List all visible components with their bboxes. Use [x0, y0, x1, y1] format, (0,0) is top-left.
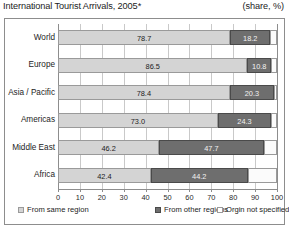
- bar-segment-orgin-not-specified: [271, 113, 277, 128]
- bar-segment-from-other-regions: 10.8: [247, 58, 271, 73]
- legend-swatch-same-icon: [18, 207, 24, 213]
- gridline-100: [277, 24, 278, 189]
- x-tick-label-50: 50: [157, 193, 179, 202]
- bar-segment-from-other-regions: 18.2: [230, 30, 270, 45]
- bar-segment-orgin-not-specified: [271, 58, 277, 73]
- gridline-50: [168, 24, 169, 189]
- gridline-90: [255, 24, 256, 189]
- bar-segment-from-other-regions: 44.2: [151, 168, 248, 183]
- bar-row: 42.444.2: [58, 168, 277, 183]
- bar-row: 78.718.2: [58, 30, 277, 45]
- bar-segment-from-same-region: 46.2: [58, 140, 159, 155]
- tick-mark-10: [80, 189, 81, 192]
- tick-mark-70: [211, 189, 212, 192]
- legend-label-same: From same region: [27, 205, 89, 214]
- bar-row: 46.247.7: [58, 140, 277, 155]
- category-label-middle-east: Middle East: [12, 143, 55, 152]
- tick-mark-60: [189, 189, 190, 192]
- chart-unit-label: (share, %): [243, 1, 284, 11]
- category-label-europe: Europe: [29, 60, 55, 69]
- legend-swatch-other-icon: [155, 207, 161, 213]
- x-tick-label-70: 70: [200, 193, 222, 202]
- bar-row: 78.420.3: [58, 85, 277, 100]
- tick-mark-50: [168, 189, 169, 192]
- category-label-africa: Africa: [34, 170, 55, 179]
- gridline-70: [211, 24, 212, 189]
- x-tick-label-0: 0: [47, 193, 69, 202]
- bar-segment-orgin-not-specified: [248, 168, 277, 183]
- bar-segment-from-same-region: 42.4: [58, 168, 151, 183]
- bar-segment-from-other-regions: 24.3: [218, 113, 271, 128]
- x-tick-label-20: 20: [91, 193, 113, 202]
- tick-mark-90: [255, 189, 256, 192]
- category-label-world: World: [34, 33, 55, 42]
- tick-mark-30: [124, 189, 125, 192]
- gridline-0: [58, 24, 59, 189]
- gridline-10: [80, 24, 81, 189]
- x-tick-label-60: 60: [178, 193, 200, 202]
- bar-segment-from-same-region: 78.7: [58, 30, 230, 45]
- chart-header: International Tourist Arrivals, 2005* (s…: [0, 0, 289, 18]
- gridline-30: [124, 24, 125, 189]
- gridline-80: [233, 24, 234, 189]
- gridline-40: [146, 24, 147, 189]
- legend-label-unspec: Orgin not specified: [226, 205, 289, 214]
- category-axis-labels: WorldEuropeAsia / PacificAmericasMiddle …: [4, 24, 55, 189]
- bar-segment-from-same-region: 78.4: [58, 85, 230, 100]
- legend-item-same[interactable]: From same region: [18, 204, 89, 216]
- x-tick-label-10: 10: [69, 193, 91, 202]
- x-tick-label-90: 90: [244, 193, 266, 202]
- gridline-20: [102, 24, 103, 189]
- bar-segment-orgin-not-specified: [264, 140, 277, 155]
- bar-segment-orgin-not-specified: [274, 85, 277, 100]
- x-tick-label-80: 80: [222, 193, 244, 202]
- category-label-asia-pacific: Asia / Pacific: [8, 88, 55, 97]
- x-tick-label-30: 30: [113, 193, 135, 202]
- chart-legend: From same regionFrom other regionsOrgin …: [4, 204, 285, 218]
- tick-mark-80: [233, 189, 234, 192]
- tick-mark-0: [58, 189, 59, 192]
- bar-row: 73.024.3: [58, 113, 277, 128]
- bar-row: 86.510.8: [58, 58, 277, 73]
- bar-segment-from-same-region: 73.0: [58, 113, 218, 128]
- x-tick-label-40: 40: [135, 193, 157, 202]
- bar-segment-from-other-regions: 20.3: [230, 85, 274, 100]
- bar-segment-from-same-region: 86.5: [58, 58, 247, 73]
- tick-mark-100: [277, 189, 278, 192]
- tick-mark-20: [102, 189, 103, 192]
- legend-item-unspec[interactable]: Orgin not specified: [217, 204, 289, 216]
- plot-area: [58, 24, 277, 189]
- tick-mark-40: [146, 189, 147, 192]
- category-label-americas: Americas: [21, 115, 55, 124]
- chart-title: International Tourist Arrivals, 2005*: [3, 1, 141, 11]
- bar-segment-orgin-not-specified: [270, 30, 277, 45]
- gridline-60: [189, 24, 190, 189]
- legend-swatch-unspec-icon: [217, 207, 223, 213]
- x-tick-label-100: 100: [266, 193, 288, 202]
- chart-figure: International Tourist Arrivals, 2005* (s…: [0, 0, 289, 229]
- bar-segment-from-other-regions: 47.7: [159, 140, 263, 155]
